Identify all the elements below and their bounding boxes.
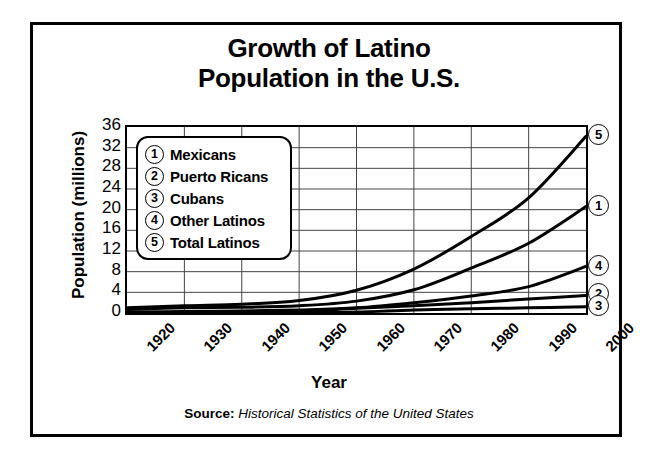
x-axis-title: Year — [33, 373, 625, 393]
x-tick-label: 1960 — [372, 319, 408, 355]
y-tick-label: 0 — [81, 302, 121, 319]
legend-item-3: 3Cubans — [145, 187, 282, 209]
legend-label: Mexicans — [170, 146, 236, 163]
x-tick-label: 1930 — [200, 319, 236, 355]
y-tick-label: 36 — [81, 116, 121, 133]
legend-label: Other Latinos — [170, 212, 265, 229]
legend-number-badge: 2 — [145, 167, 164, 186]
legend-number-badge: 4 — [145, 211, 164, 230]
legend-label: Cubans — [170, 190, 224, 207]
end-marker-4: 4 — [588, 255, 609, 276]
end-marker-5: 5 — [588, 124, 609, 145]
y-tick-label: 12 — [81, 240, 121, 257]
y-tick-label: 4 — [81, 281, 121, 298]
chart-legend: 1Mexicans2Puerto Ricans3Cubans4Other Lat… — [136, 136, 292, 260]
x-tick-label: 2000 — [602, 319, 638, 355]
y-tick-label: 20 — [81, 199, 121, 216]
y-tick-label: 8 — [81, 261, 121, 278]
legend-number-badge: 1 — [145, 145, 164, 164]
x-tick-label: 1990 — [544, 319, 580, 355]
x-tick-label: 1970 — [430, 319, 466, 355]
y-tick-label: 24 — [81, 178, 121, 195]
title-line-1: Growth of Latino — [33, 33, 625, 63]
title-line-2: Population in the U.S. — [33, 63, 625, 93]
legend-number-badge: 3 — [145, 189, 164, 208]
source-text: Historical Statistics of the United Stat… — [238, 406, 474, 421]
chart-title: Growth of Latino Population in the U.S. — [33, 33, 625, 93]
chart-frame: Growth of Latino Population in the U.S. … — [30, 22, 622, 437]
legend-item-1: 1Mexicans — [145, 143, 282, 165]
source-note: Source: Historical Statistics of the Uni… — [33, 406, 625, 421]
legend-number-badge: 5 — [145, 233, 164, 252]
legend-item-5: 5Total Latinos — [145, 231, 282, 253]
legend-label: Total Latinos — [170, 234, 260, 251]
legend-label: Puerto Ricans — [170, 168, 268, 185]
legend-item-2: 2Puerto Ricans — [145, 165, 282, 187]
source-prefix: Source: — [184, 406, 234, 421]
x-tick-label: 1980 — [487, 319, 523, 355]
legend-item-4: 4Other Latinos — [145, 209, 282, 231]
x-tick-label: 1920 — [143, 319, 179, 355]
end-marker-3: 3 — [588, 295, 609, 316]
x-tick-label: 1950 — [315, 319, 351, 355]
x-tick-label: 1940 — [258, 319, 294, 355]
y-tick-label: 28 — [81, 157, 121, 174]
end-marker-1: 1 — [588, 195, 609, 216]
y-tick-label: 32 — [81, 137, 121, 154]
y-tick-label: 16 — [81, 219, 121, 236]
